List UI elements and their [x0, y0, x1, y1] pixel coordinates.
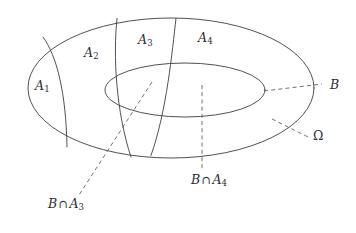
- label-a1: A1: [35, 80, 50, 94]
- label-a4-sub: 4: [207, 36, 212, 46]
- label-b-cap-a3-prefix: B: [48, 196, 57, 211]
- figure-root: A1 A2 A3 A4 B Ω B∩A4 B∩A3: [0, 0, 356, 233]
- divider-a2-a3: [115, 19, 131, 158]
- label-b: B: [330, 79, 339, 92]
- divider-a3-a4: [151, 19, 176, 156]
- label-a2: A2: [84, 47, 99, 61]
- label-b-cap-a3-base: A: [69, 196, 78, 211]
- label-a2-base: A: [84, 45, 93, 60]
- label-omega: Ω: [313, 130, 323, 143]
- leader-line-b: [264, 84, 322, 91]
- label-b-cap-a4: B∩A4: [191, 174, 227, 188]
- label-a1-sub: 1: [44, 84, 49, 94]
- label-b-cap-a4-prefix: B: [191, 172, 200, 187]
- label-b-cap-a3-sub: 3: [79, 202, 84, 212]
- label-b-cap-a4-base: A: [212, 172, 221, 187]
- label-a3: A3: [138, 34, 153, 48]
- label-a1-base: A: [35, 78, 44, 93]
- label-a2-sub: 2: [93, 51, 98, 61]
- label-a3-sub: 3: [147, 38, 152, 48]
- intersection-icon: ∩: [57, 197, 69, 211]
- label-b-cap-a3: B∩A3: [48, 198, 84, 212]
- label-a3-base: A: [138, 32, 147, 47]
- intersection-icon: ∩: [200, 173, 212, 187]
- leader-line-b-cap-a3: [79, 82, 152, 195]
- label-a4: A4: [198, 32, 213, 46]
- inner-ellipse-b: [105, 63, 265, 117]
- label-b-cap-a4-sub: 4: [222, 178, 227, 188]
- outer-ellipse-omega: [28, 18, 314, 158]
- label-a4-base: A: [198, 30, 207, 45]
